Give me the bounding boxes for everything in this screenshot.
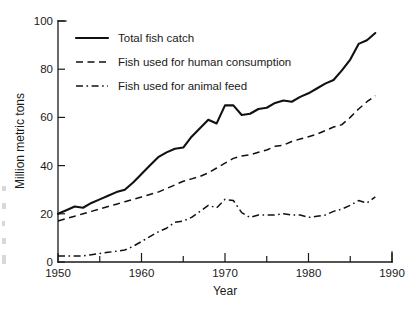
y-axis-title: Million metric tons [13,93,27,189]
chart-legend: Total fish catch Fish used for human con… [76,32,291,92]
legend-label-total-fish-catch: Total fish catch [118,32,194,44]
x-tick-label-1990: 1990 [379,267,405,279]
y-axis-tick-labels: 0 20 40 60 80 100 [34,15,53,268]
x-axis-tick-labels: 1950 1960 1970 1980 1990 [45,267,405,279]
y-tick-label-40: 40 [40,160,53,172]
x-axis-ticks [58,253,392,262]
scan-artifacts [2,186,6,264]
y-tick-label-20: 20 [40,208,53,220]
fish-catch-line-chart: 0 20 40 60 80 100 1950 1960 1970 1980 19… [0,0,414,310]
chart-figure: 0 20 40 60 80 100 1950 1960 1970 1980 19… [0,0,414,310]
series-human-consumption [58,96,375,221]
legend-label-human-consumption: Fish used for human consumption [118,56,291,68]
y-axis-ticks [58,21,65,262]
legend-label-animal-feed: Fish used for animal feed [118,80,247,92]
legend-item-animal-feed: Fish used for animal feed [76,80,247,92]
y-tick-label-80: 80 [40,63,53,75]
x-tick-label-1970: 1970 [212,267,238,279]
y-tick-label-100: 100 [34,15,53,27]
x-tick-label-1950: 1950 [45,267,71,279]
x-tick-label-1980: 1980 [296,267,322,279]
y-tick-label-60: 60 [40,111,53,123]
x-axis-title: Year [213,284,237,298]
series-animal-feed [58,197,375,256]
legend-item-total-fish-catch: Total fish catch [76,32,194,44]
x-tick-label-1960: 1960 [129,267,155,279]
legend-item-human-consumption: Fish used for human consumption [76,56,291,68]
